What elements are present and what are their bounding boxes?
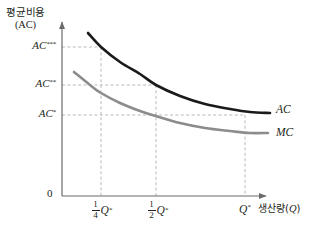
y-axis-title-paren: (AC)	[15, 19, 45, 30]
x-tick-qstar-star: *	[247, 203, 251, 211]
fraction-denominator: 2	[148, 211, 155, 220]
mc-curve-label: MC	[276, 126, 293, 138]
ac-curve-label: AC	[276, 103, 291, 115]
y-tick-ac1-stars: *	[53, 108, 56, 116]
y-tick-label-ac1: AC*	[12, 108, 56, 120]
y-tick-ac3-stars: ***	[46, 40, 56, 48]
y-tick-ac1-base: AC	[39, 107, 53, 119]
fraction-one-quarter: 1 4	[92, 200, 100, 220]
fraction-one-half: 1 2	[148, 200, 156, 220]
fraction-numerator: 1	[92, 200, 99, 209]
x-tick-label-half: 1 2 Q*	[134, 200, 182, 220]
x-tick-label-quarter: 1 4 Q*	[78, 200, 126, 220]
x-axis-title-korean: 생산량	[258, 203, 285, 214]
x-axis-title-paren-close: )	[297, 203, 301, 214]
x-axis-title-var: Q	[289, 203, 297, 214]
x-tick-label-qstar: Q*	[228, 203, 262, 216]
x-tick-half-star: *	[165, 206, 169, 214]
y-axis-title-korean: 평균비용	[6, 7, 45, 18]
y-axis-title: 평균비용 (AC)	[6, 7, 45, 30]
x-tick-half-var: Q	[157, 204, 165, 216]
x-tick-quarter-star: *	[109, 206, 113, 214]
horizontal-guide-lines	[62, 47, 245, 115]
mc-curve	[74, 72, 268, 133]
x-axis-title: 생산량(Q)	[258, 203, 300, 215]
fraction-numerator: 1	[148, 200, 155, 209]
origin-label: 0	[47, 188, 53, 200]
y-tick-ac2-base: AC	[36, 77, 50, 89]
fraction-denominator: 4	[92, 211, 99, 220]
x-tick-quarter-var: Q	[101, 204, 109, 216]
y-tick-ac3-base: AC	[32, 39, 46, 51]
y-tick-label-ac2: AC**	[12, 78, 56, 90]
y-tick-ac2-stars: **	[50, 78, 56, 86]
cost-curve-figure: 평균비용 (AC) AC*** AC** AC* 0 1 4 Q* 1 2 Q*…	[0, 0, 325, 237]
y-tick-label-ac3: AC***	[12, 40, 56, 52]
